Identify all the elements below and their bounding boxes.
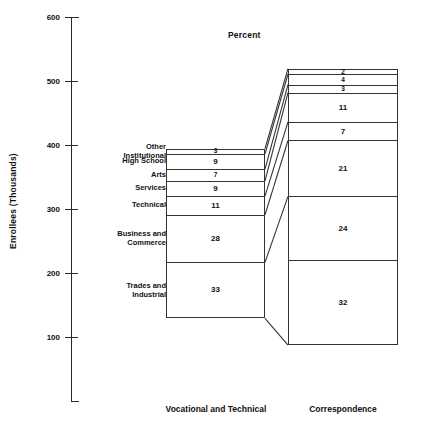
bar-segment: 7 xyxy=(166,169,265,181)
category-label: Arts xyxy=(80,170,166,179)
bar-segment-value: 3 xyxy=(341,86,345,93)
chart-root: Enrollees (Thousands) Percent 6005004003… xyxy=(0,0,429,431)
bar-segment: 28 xyxy=(166,215,265,262)
category-label-line: Trades and xyxy=(80,281,166,290)
bar-segment: 32 xyxy=(288,260,398,345)
bar-segment: 21 xyxy=(288,140,398,196)
category-label-line: Arts xyxy=(80,170,166,179)
bar-segment-value: 11 xyxy=(339,104,347,112)
category-label-line: Technical xyxy=(80,200,166,209)
group-label-correspondence: Correspondence xyxy=(283,404,403,414)
category-label-column: OtherInstitutionalHigh SchoolArtsService… xyxy=(80,0,166,431)
bar-segment-value: 32 xyxy=(339,299,348,307)
category-label-line: High School xyxy=(80,156,166,165)
bar-segment: 7 xyxy=(288,122,398,141)
connector-line xyxy=(265,85,288,169)
category-label: Business andCommerce xyxy=(80,229,166,247)
category-label: Technical xyxy=(80,200,166,209)
bar-segment-value: 33 xyxy=(211,286,220,294)
bar-segment-value: 28 xyxy=(211,235,220,243)
connector-line xyxy=(265,74,288,154)
bar-segment-value: 9 xyxy=(213,185,217,193)
bar-correspondence: 243117212432 xyxy=(288,69,398,345)
bar-segment-value: 7 xyxy=(214,172,218,179)
connector-line xyxy=(265,196,288,262)
bar-segment: 11 xyxy=(288,93,398,122)
bar-segment-value: 4 xyxy=(341,77,345,84)
category-label: Services xyxy=(80,183,166,192)
bar-segment: 3 xyxy=(288,85,398,93)
category-label: High School xyxy=(80,156,166,165)
category-label-line: Business and xyxy=(80,229,166,238)
bar-segment: 4 xyxy=(288,74,398,85)
bar-segment: 11 xyxy=(166,196,265,215)
category-label-line: Other xyxy=(80,142,166,151)
bar-segment: 9 xyxy=(166,181,265,196)
bar-segment-value: 9 xyxy=(213,158,217,166)
connector-line xyxy=(265,140,288,214)
bar-segment: 24 xyxy=(288,196,398,260)
bar-segment-value: 11 xyxy=(211,202,219,210)
bar-segment-value: 24 xyxy=(339,225,348,233)
bar-segment-value: 21 xyxy=(339,165,348,173)
bar-segment: 9 xyxy=(166,154,265,169)
category-label-line: Services xyxy=(80,183,166,192)
connector-line xyxy=(265,122,288,196)
category-label: Trades andIndustrial xyxy=(80,281,166,299)
bar-segment-value: 7 xyxy=(341,128,345,136)
bar-vocational-and-technical: 3979112833 xyxy=(166,149,265,319)
category-label-line: Industrial xyxy=(80,290,166,299)
category-label-line: Commerce xyxy=(80,238,166,247)
bar-segment: 33 xyxy=(166,262,265,318)
connector-line xyxy=(265,318,288,345)
group-label-vocational-and-technical: Vocational and Technical xyxy=(146,404,286,414)
